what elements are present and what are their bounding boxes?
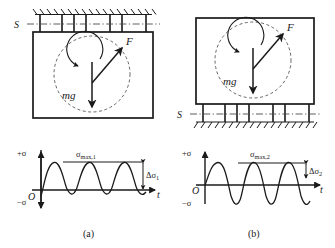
force-label-f-b: F <box>286 21 294 33</box>
figure-root: S F mg F mg <box>0 0 335 248</box>
section-label-s-b: S <box>177 109 182 120</box>
graph-b-axis-label-positive-sigma: +σ <box>182 148 192 158</box>
graph-a-x-axis-label: t <box>157 189 160 200</box>
force-label-f-a: F <box>125 35 133 47</box>
graph-b-origin-label: O <box>192 185 199 196</box>
canvas-background <box>0 0 335 248</box>
section-label-s-a: S <box>14 19 19 30</box>
graph-b-axis-label-negative-sigma: −σ <box>182 198 192 208</box>
weight-label-mg-b: mg <box>223 75 237 87</box>
panel-a-caption: (a) <box>83 228 94 240</box>
graph-a-axis-label-negative-sigma: −σ <box>17 197 27 207</box>
weight-label-mg-a: mg <box>62 89 76 101</box>
figure-canvas: S F mg F mg <box>0 0 335 248</box>
graph-a-axis-label-positive-sigma: +σ <box>17 148 27 158</box>
graph-a-origin-label: O <box>28 191 35 202</box>
graph-b-x-axis-label: t <box>320 184 323 195</box>
panel-b-caption: (b) <box>248 228 260 240</box>
